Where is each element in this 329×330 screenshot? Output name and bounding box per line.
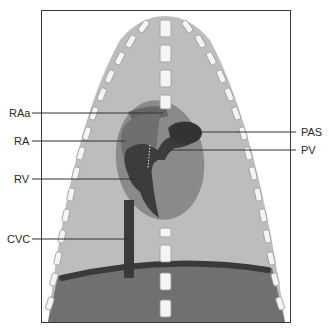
thorax-diagram [0,0,329,330]
label-pv: PV [301,144,316,156]
label-raa: RAa [9,107,30,119]
label-ra: RA [14,135,29,147]
label-pas: PAS [301,126,322,138]
pulmonary-artery-segment [170,122,202,144]
label-cvc: CVC [7,233,30,245]
label-rv: RV [14,173,29,185]
